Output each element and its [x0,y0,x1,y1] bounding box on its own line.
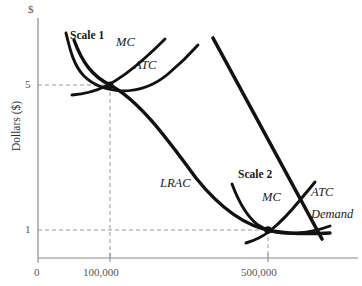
x-tick-label-0: 0 [34,267,40,278]
demand-label: Demand [311,208,353,221]
scale2-atc-label: ATC [311,186,333,199]
y-axis-title: Dollars ($) [10,86,22,166]
scale1-tangency-point [106,81,113,88]
y-tick-label-1: 1 [25,224,31,235]
x-tick-label-100000: 100,000 [83,267,119,278]
scale1-atc-label: ATC [134,59,156,72]
lrac-curve [74,40,330,234]
scale2-mc-label: MC [262,191,281,204]
y-axis-currency-symbol: $ [28,4,34,15]
scale2-title-label: Scale 2 [238,169,272,181]
scale1-title-label: Scale 1 [70,30,104,42]
y-tick-label-5: 5 [25,79,31,90]
demand-curve [213,38,322,239]
scale2-tangency-point [264,226,272,234]
scale1-mc-label: MC [116,36,135,49]
x-tick-label-500000: 500,000 [241,267,277,278]
lrac-label: LRAC [160,177,191,190]
chart-canvas [0,0,362,286]
lrac-cost-curve-figure: $ Dollars ($) 5 1 0 100,000 500,000 Scal… [0,0,362,286]
